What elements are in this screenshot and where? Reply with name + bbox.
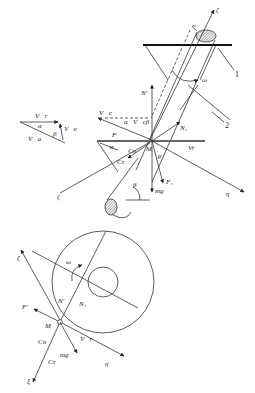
- cylinder-bottom-end: [105, 199, 117, 215]
- label-M-bottom: M: [44, 322, 52, 330]
- cylinder-bottom-cap: [113, 212, 131, 218]
- label-cn-bottom: Cn: [38, 338, 47, 346]
- cylinder-edge: [152, 40, 215, 182]
- vector-f-prime: [34, 309, 60, 322]
- force-diagram-bottom: ω ζ ξ V⃗r η F' M N' N₁ mg Cn Cτ: [17, 231, 154, 385]
- label-f1: F₁: [165, 178, 173, 186]
- label-vc: V⃗c: [99, 109, 113, 117]
- label-alpha-3: α: [124, 118, 128, 126]
- label-ct-bottom: Cτ: [48, 358, 56, 366]
- label-vr: V⃗r: [35, 112, 48, 120]
- callout-2: 2: [225, 121, 229, 130]
- callout-1: 1: [235, 70, 239, 79]
- omega-label: ω: [202, 76, 207, 84]
- label-cn: Cn: [128, 147, 137, 155]
- mechanics-diagram: 1 ζ ω 2 V⃗r V⃗a V⃗e α β F: [0, 0, 255, 393]
- label-ve: V⃗e: [64, 125, 77, 133]
- callout-1-leader: [218, 48, 234, 70]
- label-rho: ρ: [157, 152, 162, 160]
- label-n-prime: N': [140, 89, 148, 97]
- label-vcb: V⃗cβ: [133, 118, 150, 126]
- force-diagram-top: F α V⃗c α V⃗cβ N' N₁ Vr η ζ Cn Cτ M ρ F₁: [57, 85, 244, 218]
- label-beta: β: [52, 130, 57, 138]
- label-zeta-left: ζ: [57, 193, 61, 201]
- top-assembly: 1 ζ ω 2: [136, 6, 239, 182]
- label-n1-bottom: N₁: [78, 300, 86, 308]
- zeta-label-top: ζ: [216, 6, 220, 14]
- xi-axis: [33, 322, 60, 382]
- disc-outer: [52, 231, 154, 333]
- label-n-prime-bottom: N': [57, 297, 65, 305]
- label-F: F: [111, 131, 117, 139]
- label-eta: η: [226, 190, 230, 198]
- zeta-axis-top: [150, 10, 214, 140]
- support-line: [200, 45, 216, 80]
- vector-va: [20, 122, 65, 143]
- zeta-axis-left: [60, 141, 152, 193]
- cylinder-top-cap: [192, 26, 197, 31]
- label-alpha-2: α: [110, 143, 114, 151]
- vector-ve: [60, 124, 63, 140]
- label-theta: θ: [133, 181, 137, 189]
- support-line: [145, 45, 168, 80]
- label-xi: ξ: [27, 377, 30, 385]
- label-mg-bottom: mg: [60, 351, 69, 359]
- disc-radius: [60, 231, 106, 322]
- label-ct: Cτ: [117, 158, 125, 166]
- label-eta-bottom: η: [105, 360, 109, 368]
- label-mg: mg: [155, 187, 164, 195]
- label-f-prime: F': [21, 303, 28, 311]
- label-omega-bottom: ω: [66, 258, 71, 266]
- velocity-triangle: V⃗r V⃗a V⃗e α β: [20, 112, 77, 143]
- label-alpha: α: [38, 122, 42, 130]
- disc-hub: [88, 267, 118, 297]
- cone-line: [180, 85, 198, 110]
- label-vr-top: Vr: [188, 144, 195, 152]
- label-va: V⃗a: [28, 135, 42, 143]
- vector-f1: [152, 141, 163, 183]
- label-vr-bottom: V⃗r: [80, 335, 93, 343]
- label-zeta-bottom: ζ: [17, 254, 21, 262]
- label-n1: N₁: [179, 124, 187, 132]
